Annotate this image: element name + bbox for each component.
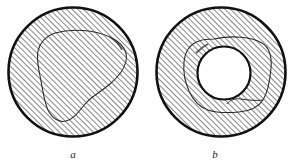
figure-label-b: b: [205, 148, 225, 160]
panel-a-hatch-fill: [6, 4, 142, 144]
figure-canvas: [0, 0, 295, 166]
figure-label-a: a: [63, 148, 83, 160]
panel-a: [6, 4, 142, 144]
panel-b: [150, 4, 290, 144]
panel-b-hole-circle: [198, 47, 251, 100]
